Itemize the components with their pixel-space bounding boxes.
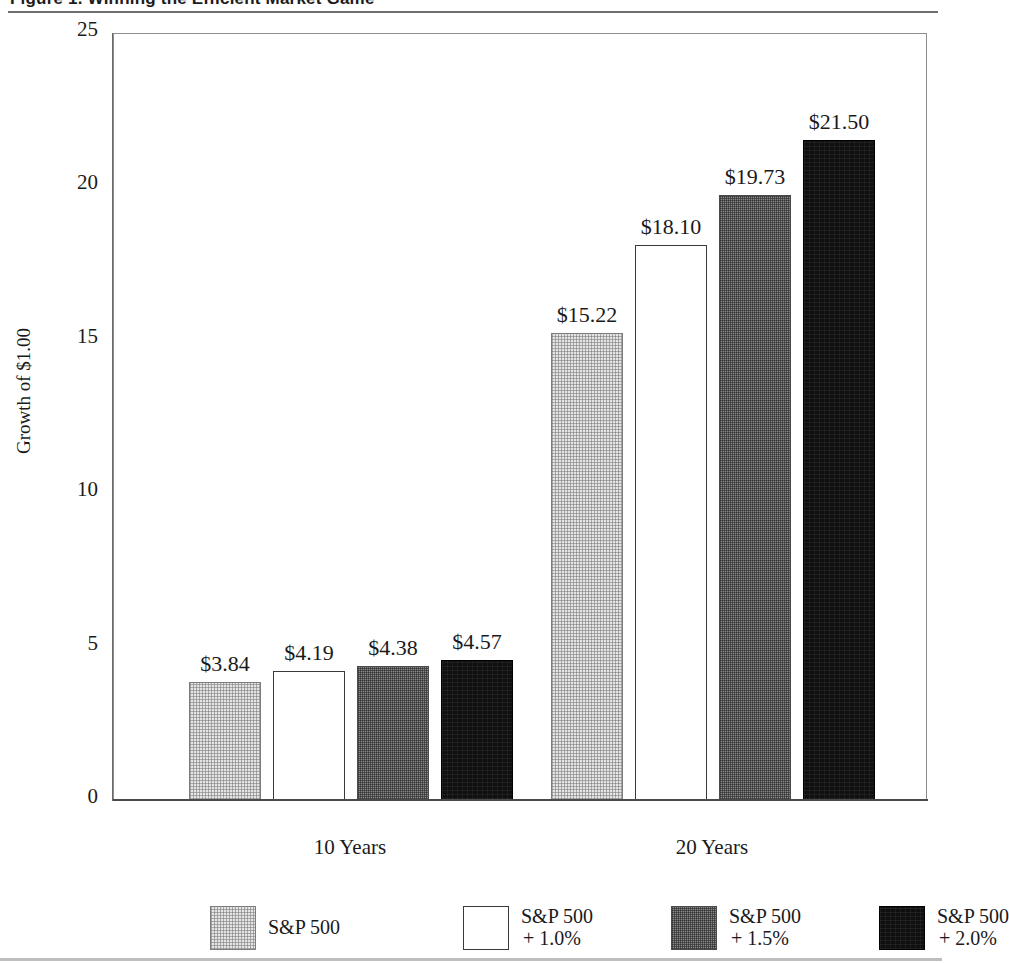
legend-label: S&P 500+ 2.0% [937,906,1009,949]
legend-item[interactable]: S&P 500+ 2.0% [879,898,1009,958]
legend-label-line2: + 1.0% [521,928,593,950]
bar [803,140,875,800]
bar-value-label: $21.50 [781,109,897,135]
legend-item[interactable]: S&P 500+ 1.5% [671,898,801,958]
legend-label-line1: S&P 500 [268,917,340,939]
bar-value-label: $18.10 [613,214,729,240]
legend-label-line1: S&P 500 [521,906,593,928]
legend-label-line1: S&P 500 [937,906,1009,928]
x-axis-line [113,799,928,801]
y-axis-tick-label: 0 [40,786,98,807]
legend-label: S&P 500+ 1.0% [521,906,593,949]
bar [441,660,513,800]
y-axis-title: Growth of $1.00 [13,281,35,501]
legend-swatch-icon [671,906,717,950]
plot-area: $3.84$4.19$4.38$4.57$15.22$18.10$19.73$2… [113,33,927,800]
legend-swatch-icon [210,906,256,950]
y-axis-tick-label: 15 [40,326,98,347]
scan-bottom-edge [0,958,942,961]
x-axis-category-label: 10 Years [260,835,440,860]
bar [719,195,791,800]
y-axis-tick-label: 5 [40,633,98,654]
legend-swatch-icon [463,906,509,950]
bar-value-label: $19.73 [697,164,813,190]
title-divider [8,11,938,13]
legend-item[interactable]: S&P 500+ 1.0% [463,898,593,958]
legend-label-line2: + 2.0% [937,928,1009,950]
bar [551,333,623,800]
legend-label: S&P 500+ 1.5% [729,906,801,949]
bar [635,245,707,800]
bar [357,666,429,800]
x-axis-category-label: 20 Years [622,835,802,860]
legend-swatch-icon [879,906,925,950]
bar-value-label: $15.22 [529,302,645,328]
y-axis-tick-label: 10 [40,479,98,500]
legend-label-line2: + 1.5% [729,928,801,950]
bar [189,682,261,800]
legend-label: S&P 500 [268,917,340,939]
chart-legend: S&P 500S&P 500+ 1.0%S&P 500+ 1.5%S&P 500… [0,898,942,960]
legend-item[interactable]: S&P 500 [210,898,340,958]
legend-label-line1: S&P 500 [729,906,801,928]
y-axis-tick-label: 25 [40,19,98,40]
page-title: Figure 1. Winning the Efficient Market G… [10,0,375,9]
bar-value-label: $4.57 [419,629,535,655]
bar [273,671,345,800]
y-axis-tick-label: 20 [40,172,98,193]
